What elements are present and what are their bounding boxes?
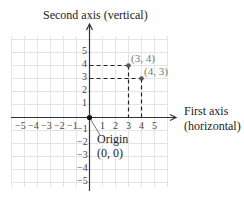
y-axis-label: Second axis (vertical) [43, 8, 148, 23]
point-label-3-4: (3, 4) [131, 52, 155, 64]
y-tick-2: 2 [82, 84, 87, 95]
y-tick-1: 1 [82, 97, 87, 108]
x-axis-label-line2: (horizontal) [184, 119, 241, 134]
y-tick-neg2: −2 [77, 136, 88, 147]
x-tick-3: 3 [126, 120, 131, 131]
axes [11, 24, 176, 191]
y-tick-4: 4 [82, 58, 87, 69]
y-tick-neg3: −3 [77, 149, 88, 160]
y-tick-3: 3 [82, 71, 87, 82]
x-axis-label-line1: First axis [184, 104, 228, 119]
origin-label-line1: Origin [97, 132, 128, 147]
origin-label-line2: (0, 0) [97, 146, 123, 161]
y-tick-neg1: −1 [77, 123, 88, 134]
x-tick-2: 2 [113, 120, 118, 131]
x-tick-5: 5 [152, 120, 157, 131]
x-tick-4: 4 [139, 120, 144, 131]
x-tick-1: 1 [100, 120, 105, 131]
y-tick-5: 5 [82, 45, 87, 56]
origin-point [87, 115, 92, 120]
x-tick-neg4: −4 [28, 120, 39, 131]
point-label-4-3: (4, 3) [144, 65, 168, 77]
x-tick-neg3: −3 [41, 120, 52, 131]
y-tick-neg5: −5 [77, 175, 88, 186]
x-tick-neg2: −2 [54, 120, 65, 131]
y-tick-neg4: −4 [77, 162, 88, 173]
x-tick-neg5: −5 [15, 120, 26, 131]
